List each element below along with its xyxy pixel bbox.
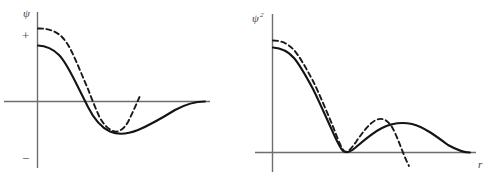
figure-container: ψ + − ψ 2 r <box>0 0 492 179</box>
right-y-axis-label-group: ψ 2 <box>252 11 264 24</box>
left-positive-marker: + <box>22 28 29 43</box>
figure-svg: ψ + − ψ 2 r <box>0 0 492 179</box>
right-x-axis-label: r <box>478 158 483 170</box>
probability-density-panel: ψ 2 r <box>252 11 483 172</box>
left-negative-marker: − <box>22 151 29 166</box>
left-y-axis-label: ψ <box>23 7 30 19</box>
left-dashed-curve <box>38 28 140 131</box>
right-solid-curve <box>273 48 470 153</box>
wavefunction-panel: ψ + − <box>4 7 210 168</box>
left-solid-curve <box>38 46 205 134</box>
right-y-axis-label-exponent: 2 <box>260 11 264 19</box>
right-y-axis-label: ψ <box>252 12 259 24</box>
